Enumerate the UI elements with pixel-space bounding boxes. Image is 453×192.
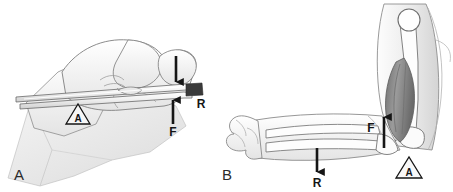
panel-a-resistance-label: R: [197, 97, 206, 111]
lever-figure: A F R A: [0, 0, 453, 192]
forceps-tip: [186, 83, 203, 96]
figure-canvas: A F R A: [0, 0, 453, 192]
panel-b-force-label: F: [367, 121, 374, 135]
humeral-head: [398, 9, 420, 31]
panel-a-axis-letter: A: [74, 113, 81, 124]
panel-a-force-label: F: [169, 125, 176, 139]
panel-b-letter: B: [222, 166, 232, 183]
panel-b-axis-letter: A: [405, 167, 412, 178]
panel-b-resistance-label: R: [313, 176, 322, 190]
panel-a-letter: A: [14, 166, 24, 183]
